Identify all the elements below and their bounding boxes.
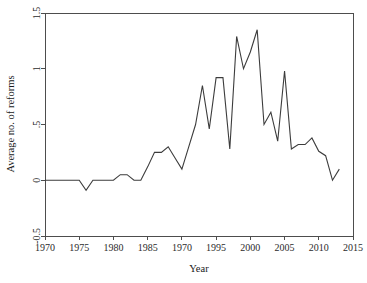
y-tick-label-2: .5 [31,121,42,129]
data-series-group [45,30,339,191]
x-axis-title: Year [189,263,209,274]
y-axis-tick-labels: -0.50.511.5 [31,7,42,244]
x-tick-label-7: 2005 [275,242,295,253]
x-axis-tick-labels: 1970197519801985197019952000200520102015 [35,242,363,253]
plot-frame [45,13,353,236]
x-tick-label-6: 2000 [240,242,260,253]
y-tick-label-0: -0.5 [31,228,42,244]
chart-plot-area: 1970197519801985197019952000200520102015… [0,0,367,283]
y-tick-label-3: 1 [31,66,42,71]
x-tick-label-9: 2015 [343,242,363,253]
x-tick-label-1: 1975 [69,242,89,253]
x-tick-label-3: 1985 [138,242,158,253]
y-tick-label-4: 1.5 [31,7,42,20]
plot-border [45,13,353,236]
x-tick-label-2: 1980 [103,242,123,253]
y-axis-title: Average no. of reforms [5,75,16,172]
chart-figure: 1970197519801985197019952000200520102015… [0,0,367,283]
y-tick-label-1: 0 [31,178,42,183]
x-tick-label-4: 1970 [172,242,192,253]
x-axis-ticks [45,236,353,240]
y-axis-ticks [41,13,45,236]
series-line-0 [45,30,339,191]
x-tick-label-8: 2010 [309,242,329,253]
x-tick-label-5: 1995 [206,242,226,253]
